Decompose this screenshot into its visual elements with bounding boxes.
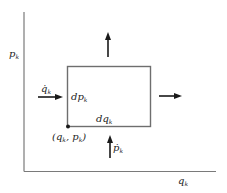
q-dot-label: q̇k bbox=[41, 83, 51, 95]
phase-space-diagram: pk qk q̇k dpk dqk (qk, pk) ṗk bbox=[0, 0, 227, 193]
corner-point-label: (qk, pk) bbox=[52, 131, 86, 143]
corner-point-dot bbox=[66, 125, 70, 129]
p-dot-label: ṗk bbox=[113, 142, 123, 154]
x-axis-label: qk bbox=[178, 175, 188, 187]
arrow-outflow-right bbox=[159, 93, 182, 99]
dp-label: dpk bbox=[71, 91, 88, 103]
y-axis-label: pk bbox=[9, 48, 19, 60]
arrow-outflow-top bbox=[105, 32, 111, 57]
dq-label: dqk bbox=[96, 113, 113, 125]
